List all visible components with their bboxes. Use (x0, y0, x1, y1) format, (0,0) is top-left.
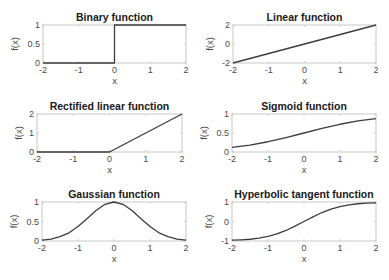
x-tick-label: 0 (302, 65, 307, 75)
y-tick-label: 1 (34, 197, 39, 207)
x-tick-label: 2 (183, 243, 188, 253)
subplot-title: Rectified linear function (50, 100, 170, 112)
y-axis-label: f(x) (13, 126, 24, 140)
x-tick-label: 1 (147, 243, 152, 253)
x-tick-label: -1 (69, 154, 77, 164)
y-axis-label: f(x) (204, 37, 215, 51)
x-tick-label: 2 (183, 65, 188, 75)
x-tick-label: -2 (39, 65, 47, 75)
subplot-sigmoid: -2-101200.51xf(x)Sigmoid function (198, 100, 379, 175)
subplot-binary: -2-101200.51xf(x)Binary function (9, 11, 189, 86)
y-tick-label: 0 (29, 147, 34, 157)
y-tick-label: 0 (224, 147, 229, 157)
x-tick-label: -1 (264, 154, 272, 164)
figure: -2-101200.51xf(x)Binary function -2-1012… (0, 0, 389, 280)
y-tick-label: 1 (35, 20, 40, 30)
y-axis-label: f(x) (198, 126, 209, 140)
x-tick-label: 0 (301, 243, 306, 253)
y-tick-label: 0 (224, 217, 229, 227)
x-tick-label: 0 (301, 154, 306, 164)
subplot-title: Gaussian function (68, 188, 160, 200)
y-tick-label: 1 (29, 128, 34, 138)
x-tick-label: 2 (373, 65, 378, 75)
x-tick-label: 0 (111, 243, 116, 253)
subplot-linear: -2-1012-202xf(x)Linear function (204, 11, 379, 86)
x-axis-label: x (302, 75, 307, 86)
y-tick-label: 1 (224, 197, 229, 207)
subplot-title: Linear function (267, 11, 343, 23)
subplot-title: Binary function (76, 11, 153, 23)
x-tick-label: 1 (338, 65, 343, 75)
x-tick-label: -2 (229, 65, 237, 75)
x-axis-label: x (107, 164, 112, 175)
x-tick-label: -2 (33, 154, 41, 164)
y-tick-label: -2 (222, 58, 230, 68)
y-axis-label: f(x) (9, 37, 20, 51)
y-tick-label: 0.5 (27, 39, 40, 49)
x-tick-label: 2 (373, 154, 378, 164)
plot-area (37, 114, 182, 152)
x-tick-label: 0 (107, 154, 112, 164)
subplot-tanh: -2-1012-101xf(x)Hyperbolic tangent funct… (203, 188, 379, 264)
x-tick-label: 1 (337, 154, 342, 164)
x-axis-label: x (112, 253, 117, 264)
x-tick-label: -1 (264, 243, 272, 253)
x-tick-label: -1 (75, 65, 83, 75)
x-axis-label: x (302, 253, 307, 264)
y-tick-label: 0 (34, 236, 39, 246)
subplot-title: Sigmoid function (261, 100, 347, 112)
y-tick-label: 2 (225, 20, 230, 30)
x-tick-label: 2 (373, 243, 378, 253)
x-tick-label: -1 (74, 243, 82, 253)
y-tick-label: 1 (224, 109, 229, 119)
x-axis-label: x (302, 164, 307, 175)
x-tick-label: -1 (265, 65, 273, 75)
x-tick-label: -2 (38, 243, 46, 253)
subplot-relu: -2-1012012xf(x)Rectified linear function (13, 100, 185, 175)
x-tick-label: 0 (112, 65, 117, 75)
subplot-title: Hyperbolic tangent function (234, 188, 373, 200)
x-tick-label: 1 (143, 154, 148, 164)
x-tick-label: -2 (228, 243, 236, 253)
x-tick-label: -2 (228, 154, 236, 164)
subplot-gaussian: -2-101200.51xf(x)Gaussian function (8, 188, 189, 264)
y-tick-label: 0.5 (26, 217, 39, 227)
y-tick-label: 0 (225, 39, 230, 49)
y-tick-label: 0.5 (216, 128, 229, 138)
y-tick-label: 2 (29, 109, 34, 119)
x-tick-label: 1 (337, 243, 342, 253)
x-tick-label: 2 (179, 154, 184, 164)
y-tick-label: -1 (221, 236, 229, 246)
y-tick-label: 0 (35, 58, 40, 68)
x-tick-label: 1 (148, 65, 153, 75)
y-axis-label: f(x) (8, 215, 19, 229)
x-axis-label: x (112, 75, 117, 86)
y-axis-label: f(x) (203, 215, 214, 229)
